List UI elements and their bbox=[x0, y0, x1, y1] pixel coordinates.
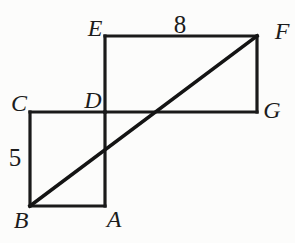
vertex-label-c: C bbox=[11, 90, 28, 116]
vertex-label-f: F bbox=[274, 18, 290, 44]
vertex-label-e: E bbox=[87, 15, 103, 41]
side-length-cb: 5 bbox=[9, 144, 22, 171]
segment-bf-diagonal bbox=[30, 36, 257, 206]
vertex-label-b: B bbox=[14, 207, 29, 233]
figure-canvas: E F G D C B A 8 5 bbox=[0, 0, 295, 243]
side-length-ef: 8 bbox=[174, 11, 187, 38]
geometry-figure: E F G D C B A 8 5 bbox=[0, 0, 295, 243]
vertex-label-a: A bbox=[105, 206, 122, 232]
vertex-label-d: D bbox=[83, 87, 101, 113]
vertex-label-g: G bbox=[263, 97, 280, 123]
